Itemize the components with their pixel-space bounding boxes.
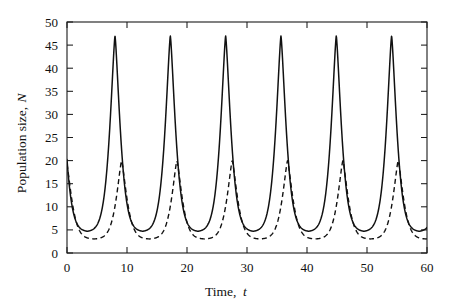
y-tick-label: 25: [45, 130, 58, 145]
y-axis-title-text: Population size,: [14, 107, 29, 193]
y-tick-label: 35: [45, 84, 58, 99]
chart-figure: 05101520253035404550 0102030405060 Time,…: [0, 0, 452, 304]
y-axis-title-symbol: N: [14, 93, 29, 104]
x-tick-label: 20: [181, 260, 194, 275]
x-tick-label: 60: [421, 260, 434, 275]
y-tick-label: 30: [45, 107, 58, 122]
x-tick-label: 10: [121, 260, 134, 275]
x-tick-label: 40: [301, 260, 314, 275]
x-tick-label: 50: [361, 260, 374, 275]
y-tick-label: 45: [45, 38, 58, 53]
y-tick-label: 20: [45, 153, 58, 168]
y-tick-label: 0: [52, 246, 59, 261]
y-axis-title: Population size, N: [14, 93, 29, 194]
x-tick-label: 0: [64, 260, 71, 275]
x-tick-label: 30: [241, 260, 254, 275]
y-tick-label: 40: [45, 61, 58, 76]
y-tick-label: 50: [45, 15, 58, 30]
y-tick-label: 10: [45, 199, 58, 214]
x-axis-title-text: Time,: [205, 284, 236, 299]
population-oscillation-chart: 05101520253035404550 0102030405060 Time,…: [0, 0, 452, 304]
y-tick-label: 5: [52, 222, 59, 237]
y-tick-label: 15: [45, 176, 58, 191]
